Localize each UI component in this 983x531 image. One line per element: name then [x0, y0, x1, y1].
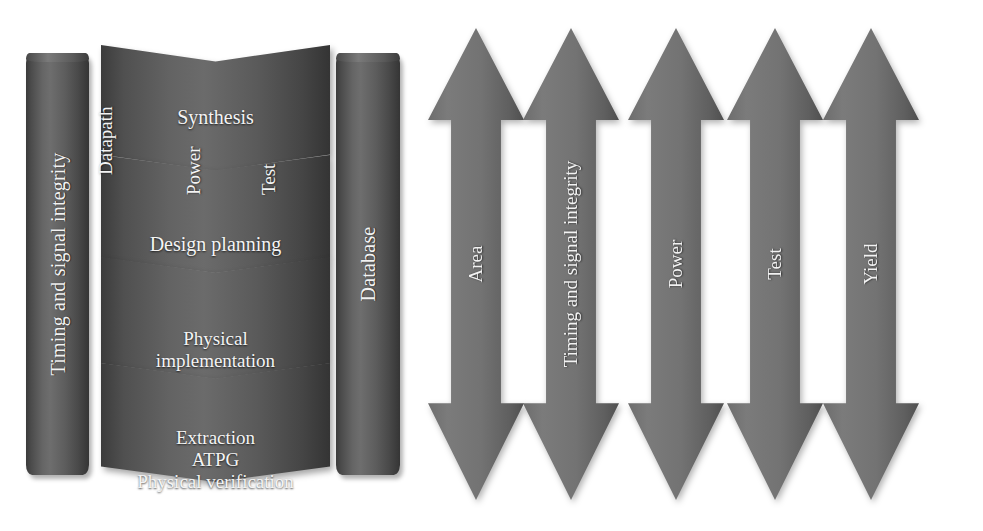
double-arrow-icon — [428, 28, 524, 500]
flow-stage-extraction-shape — [101, 363, 330, 482]
timing-and-signal-integrity-cylinder: Timing and signal integrity — [26, 53, 89, 475]
flow-stage-design-planning-shape — [101, 155, 330, 273]
double-arrow-icon — [823, 28, 919, 500]
timing-and-signal-integrity-label: Timing and signal integrity — [46, 153, 69, 376]
diagram-canvas: Timing and signal integrity Synthesis De… — [0, 0, 983, 531]
double-arrow-timing: Timing and signal integrity — [523, 28, 619, 500]
flow-stage-extraction-atpg-verification[interactable] — [101, 363, 330, 482]
double-arrow-icon — [727, 28, 823, 500]
database-label: Database — [357, 227, 380, 302]
flow-stage-synthesis[interactable] — [101, 45, 330, 171]
double-arrow-icon — [628, 28, 724, 500]
flow-stage-design-planning[interactable] — [101, 155, 330, 273]
double-arrow-icon — [523, 28, 619, 500]
double-arrow-power: Power — [628, 28, 724, 500]
flow-stage-synthesis-shape — [101, 45, 330, 171]
double-arrow-area: Area — [428, 28, 524, 500]
double-arrow-yield: Yield — [823, 28, 919, 500]
database-cylinder: Database — [336, 53, 400, 475]
flow-stage-physical-implementation[interactable] — [101, 257, 330, 379]
double-arrow-test: Test — [727, 28, 823, 500]
design-flow-stack: Synthesis Design planning Physical imple… — [101, 45, 330, 482]
flow-stage-physical-implementation-shape — [101, 257, 330, 379]
